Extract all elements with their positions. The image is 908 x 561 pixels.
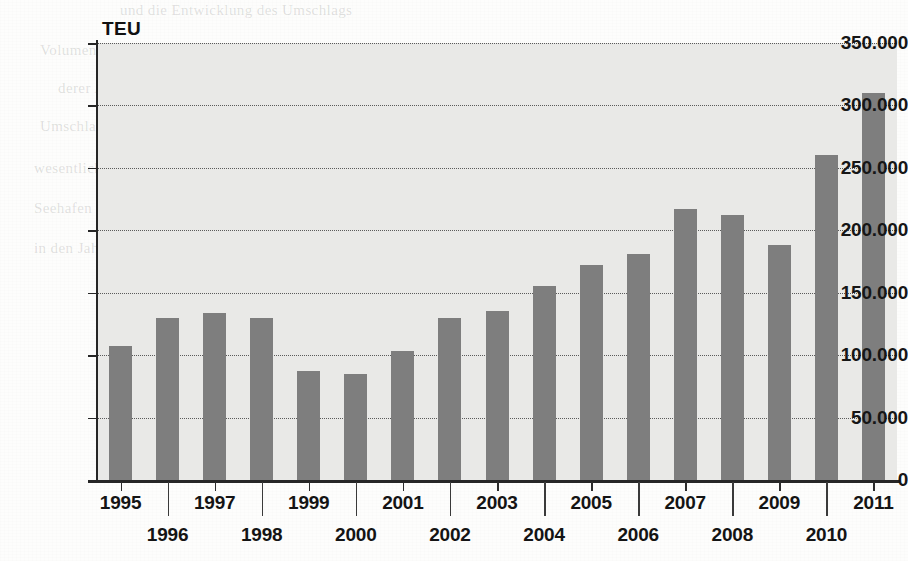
bar bbox=[768, 245, 791, 480]
x-axis-tick bbox=[403, 482, 405, 491]
x-axis-tick-label: 2002 bbox=[429, 524, 470, 546]
bar bbox=[344, 374, 367, 480]
scanned-page: und die Entwicklung des Umschlags Volume… bbox=[0, 0, 908, 561]
bar bbox=[627, 254, 650, 480]
bar bbox=[250, 318, 273, 480]
y-axis-tick bbox=[88, 43, 98, 45]
x-axis-tick bbox=[544, 482, 546, 516]
x-axis-tick bbox=[215, 482, 217, 491]
x-axis-tick-label: 2003 bbox=[476, 492, 517, 514]
x-axis-tick-label: 1999 bbox=[288, 492, 329, 514]
x-axis-tick-label: 2004 bbox=[523, 524, 564, 546]
x-axis-tick bbox=[873, 482, 875, 491]
y-axis-tick-label: 50.000 bbox=[826, 407, 908, 429]
x-axis-line bbox=[88, 480, 900, 483]
bar bbox=[438, 318, 461, 480]
bar bbox=[203, 313, 226, 480]
x-axis-tick-label: 2005 bbox=[570, 492, 611, 514]
y-axis-tick-label: 250.000 bbox=[826, 157, 908, 179]
x-axis-tick-label: 2006 bbox=[617, 524, 658, 546]
y-axis-tick-label: 200.000 bbox=[826, 219, 908, 241]
bar bbox=[721, 215, 744, 480]
x-axis-tick bbox=[685, 482, 687, 491]
bar bbox=[156, 318, 179, 480]
x-axis-tick bbox=[826, 482, 828, 516]
y-axis-tick-label: 100.000 bbox=[826, 344, 908, 366]
x-axis-tick bbox=[121, 482, 123, 491]
x-axis-tick-label: 2001 bbox=[382, 492, 423, 514]
y-axis-tick-label: 150.000 bbox=[826, 282, 908, 304]
y-axis-tick bbox=[88, 293, 98, 295]
x-axis-tick bbox=[450, 482, 452, 516]
bar bbox=[486, 311, 509, 480]
y-axis-tick-label: 300.000 bbox=[826, 94, 908, 116]
bar bbox=[391, 351, 414, 480]
y-axis-tick-label: 0 bbox=[826, 469, 908, 491]
y-axis-tick bbox=[88, 480, 98, 482]
x-axis-tick-label: 2008 bbox=[712, 524, 753, 546]
y-axis-tick bbox=[88, 168, 98, 170]
bar bbox=[533, 286, 556, 480]
bar bbox=[580, 265, 603, 480]
y-axis-tick bbox=[88, 230, 98, 232]
x-axis-tick-label: 2010 bbox=[806, 524, 847, 546]
x-axis-tick-label: 2011 bbox=[853, 492, 893, 514]
y-axis-tick bbox=[88, 355, 98, 357]
x-axis-tick bbox=[262, 482, 264, 516]
x-axis-tick bbox=[497, 482, 499, 491]
x-axis-tick-label: 1998 bbox=[241, 524, 282, 546]
x-axis-tick bbox=[168, 482, 170, 516]
gridline bbox=[97, 168, 897, 169]
gridline bbox=[97, 230, 897, 231]
x-axis-tick bbox=[732, 482, 734, 516]
gridline bbox=[97, 43, 897, 44]
y-axis-unit-label: TEU bbox=[102, 18, 141, 40]
bar bbox=[297, 371, 320, 480]
x-axis-tick-label: 2000 bbox=[335, 524, 376, 546]
y-axis-tick bbox=[88, 105, 98, 107]
bar-chart: TEU 050.000100.000150.000200.000250.0003… bbox=[0, 0, 908, 561]
x-axis-tick bbox=[638, 482, 640, 516]
x-axis-tick bbox=[356, 482, 358, 516]
bar bbox=[674, 209, 697, 480]
gridline bbox=[97, 105, 897, 106]
x-axis-tick-label: 1995 bbox=[100, 492, 141, 514]
x-axis-tick-label: 1997 bbox=[194, 492, 235, 514]
bar bbox=[109, 346, 132, 480]
plot-area bbox=[97, 43, 897, 480]
y-axis-tick bbox=[88, 418, 98, 420]
x-axis-tick-label: 1996 bbox=[147, 524, 188, 546]
x-axis-tick bbox=[591, 482, 593, 491]
x-axis-tick bbox=[779, 482, 781, 491]
x-axis-tick-label: 2009 bbox=[759, 492, 800, 514]
x-axis-tick bbox=[309, 482, 311, 491]
bar bbox=[815, 155, 838, 480]
x-axis-tick-label: 2007 bbox=[665, 492, 706, 514]
y-axis-tick-label: 350.000 bbox=[826, 32, 908, 54]
